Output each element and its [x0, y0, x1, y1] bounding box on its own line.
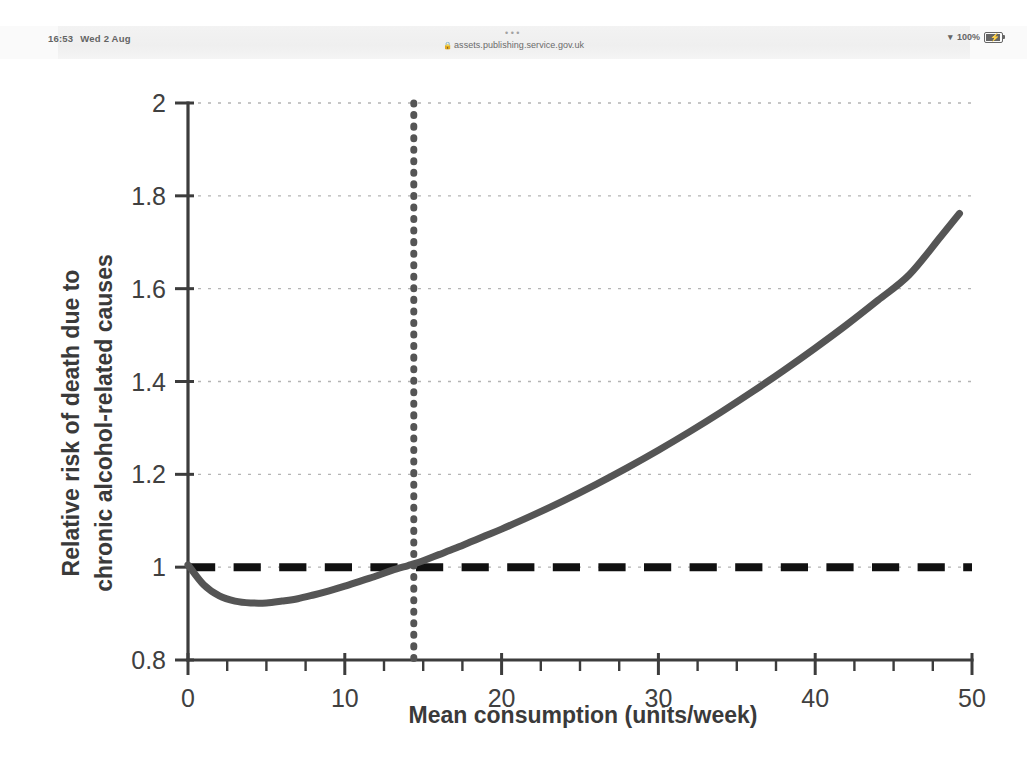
- y-tick-label: 2: [152, 89, 166, 117]
- x-tick-label: 10: [331, 684, 359, 712]
- status-bar-date: Wed 2 Aug: [80, 33, 130, 44]
- y-tick-label: 0.8: [131, 646, 166, 674]
- x-tick-label: 0: [181, 684, 195, 712]
- y-tick-label: 1.2: [131, 460, 166, 488]
- status-bar-indicators: ▾ 100% ⚡: [948, 32, 1003, 43]
- status-bar-clock: 16:53Wed 2 Aug: [48, 33, 131, 44]
- y-tick-label: 1.4: [131, 368, 166, 396]
- y-axis-title-line-2: chronic alcohol-related causes: [91, 254, 117, 591]
- y-tick-label: 1.6: [131, 275, 166, 303]
- status-bar-time: 16:53: [48, 33, 73, 44]
- x-tick-label: 40: [801, 684, 829, 712]
- y-tick-label: 1.8: [131, 182, 166, 210]
- data-series: [188, 213, 959, 603]
- status-bar-band: [58, 26, 970, 59]
- axis-minor-tick-marks: [227, 660, 933, 671]
- browser-chrome: 16:53Wed 2 Aug ••• 🔒assets.publishing.se…: [0, 0, 1027, 66]
- axis-tick-marks: [175, 103, 972, 675]
- wifi-icon: ▾: [948, 33, 953, 42]
- grid-lines: [188, 103, 972, 660]
- x-tick-label: 50: [958, 684, 986, 712]
- relative-risk-chart: 0.811.21.41.61.82 01020304050 Mean consu…: [0, 66, 1027, 781]
- series-line: [188, 213, 959, 603]
- battery-charging-icon: ⚡: [984, 32, 1003, 43]
- y-axis-tick-labels: 0.811.21.41.61.82: [131, 89, 166, 674]
- y-axis-title-line-1: Relative risk of death due to: [58, 270, 84, 577]
- chart-canvas: 0.811.21.41.61.82 01020304050 Mean consu…: [0, 66, 1027, 781]
- x-axis-title: Mean consumption (units/week): [409, 702, 758, 728]
- y-tick-label: 1: [152, 553, 166, 581]
- battery-percent-label: 100%: [957, 32, 980, 42]
